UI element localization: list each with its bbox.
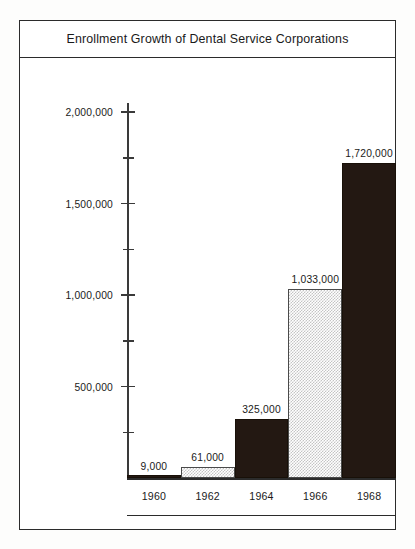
bar-value-label-1962: 61,000 — [191, 452, 224, 463]
y-tick-minor — [123, 249, 134, 251]
y-axis-tick-label: 500,000 — [74, 381, 113, 392]
x-axis-label-1964: 1964 — [249, 490, 273, 502]
chart-figure: Enrollment Growth of Dental Service Corp… — [0, 0, 415, 549]
value-axis-line — [127, 103, 129, 480]
bar-1966[interactable] — [288, 289, 342, 478]
y-tick-minor — [123, 340, 134, 342]
bar-1960[interactable] — [127, 475, 181, 478]
y-tick-minor — [123, 432, 134, 434]
chart-title-band: Enrollment Growth of Dental Service Corp… — [19, 20, 396, 58]
x-axis-label-1968: 1968 — [357, 490, 381, 502]
y-tick-major — [121, 386, 135, 388]
y-tick-major — [121, 294, 135, 296]
bar-value-label-1968: 1,720,000 — [345, 148, 393, 159]
bar-1964[interactable] — [235, 419, 289, 478]
bar-value-label-1964: 325,000 — [242, 404, 281, 415]
bar-value-label-1960: 9,000 — [141, 461, 168, 472]
x-axis-label-1966: 1966 — [303, 490, 327, 502]
y-axis-tick-label: 1,000,000 — [65, 290, 113, 301]
bar-value-label-1966: 1,033,000 — [291, 274, 339, 285]
bar-1962[interactable] — [181, 467, 235, 478]
y-tick-major — [121, 111, 135, 113]
x-axis-label-1960: 1960 — [142, 490, 166, 502]
plot-area: 500,0001,000,0001,500,0002,000,000 9,000… — [19, 58, 396, 530]
bar-1968[interactable] — [342, 163, 396, 478]
y-tick-minor — [123, 157, 134, 159]
chart-title: Enrollment Growth of Dental Service Corp… — [67, 32, 349, 46]
x-axis-label-1962: 1962 — [196, 490, 220, 502]
x-axis-band: 19601962196419661968 — [127, 480, 396, 516]
y-tick-major — [121, 203, 135, 205]
y-axis-tick-label: 1,500,000 — [65, 198, 113, 209]
y-axis-tick-label: 2,000,000 — [65, 107, 113, 118]
